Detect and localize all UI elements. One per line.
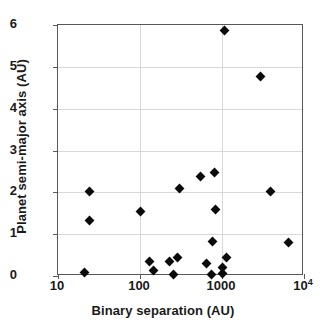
gridline-horizontal [58,67,302,68]
data-point [266,187,276,197]
x-tick-label: 104 [293,279,312,292]
y-axis-title: Planet semi-major axis (AU) [14,22,29,272]
y-tick-mark [53,67,58,68]
data-point [84,187,94,197]
gridline-vertical [140,25,141,274]
data-point [209,168,219,178]
data-point [149,266,159,276]
gridline-horizontal [58,234,302,235]
y-tick-mark [53,25,58,26]
gridline-horizontal [58,109,302,110]
data-point [195,172,205,182]
x-tick-label: 10 [50,279,64,292]
x-tick-label: 100 [128,279,150,292]
scatter-plot-figure: 0123456 101001000104 Planet semi-major a… [0,0,326,334]
gridline-vertical [222,25,223,274]
x-tick-label: 1000 [207,279,236,292]
data-point [283,238,293,248]
data-point [169,269,179,279]
gridline-horizontal [58,151,302,152]
x-axis-title: Binary separation (AU) [0,303,326,318]
y-tick-mark [53,151,58,152]
data-point [84,216,94,226]
data-point [210,205,220,215]
plot-area [57,24,303,275]
y-tick-mark [53,192,58,193]
data-point [79,268,89,278]
data-point [256,71,266,81]
data-point [201,258,211,268]
data-point [208,237,218,247]
y-tick-mark [53,109,58,110]
data-point [219,25,229,35]
data-point [222,252,232,262]
data-point [135,207,145,217]
y-tick-mark [53,234,58,235]
